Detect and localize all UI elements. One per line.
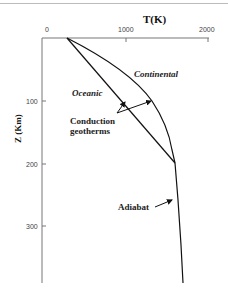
x-tick-label-2000: 2000 [199, 26, 215, 33]
continental-label: Continental [134, 69, 179, 79]
oceanic-geotherm [67, 38, 175, 163]
y-tick-label-200: 200 [26, 161, 38, 168]
conduction-label-line1: Conduction [70, 116, 115, 126]
y-axis-title: Z (Km) [13, 114, 23, 143]
geotherm-chart: 0 1000 2000 T(K) 100 200 300 Z (Km) Cont… [0, 0, 228, 300]
adiabat-label: Adiabat [118, 202, 149, 212]
x-tick-label-1000: 1000 [118, 26, 134, 33]
arrow-to-continental [117, 101, 151, 113]
y-tick-label-300: 300 [26, 223, 38, 230]
x-tick-label-0: 0 [45, 26, 49, 33]
adiabat-curve [175, 163, 183, 283]
oceanic-label: Oceanic [72, 88, 103, 98]
y-tick-label-100: 100 [26, 98, 38, 105]
conduction-label-line2: geotherms [70, 126, 110, 136]
arrow-to-adiabat [155, 200, 172, 207]
x-axis-title: T(K) [143, 13, 167, 26]
